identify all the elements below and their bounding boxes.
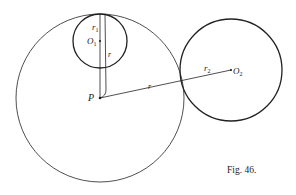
figure-caption: Fig. 46.: [227, 165, 256, 175]
label-r2: r2: [204, 63, 211, 74]
label-r-vertical: r: [108, 50, 112, 59]
label-o2: O2: [233, 66, 243, 77]
label-r-slant: r: [148, 82, 152, 91]
p-to-o2-line: [100, 70, 231, 98]
label-o1: O1: [87, 36, 97, 47]
point-p: [99, 97, 102, 100]
point-o2: [230, 69, 232, 71]
figure-46-diagram: r1 O1 r P r r2 O2 Fig. 46.: [0, 0, 296, 195]
label-r1: r1: [92, 22, 99, 33]
point-o1: [99, 40, 101, 42]
label-p: P: [87, 92, 94, 103]
r-bracket: [100, 14, 106, 98]
